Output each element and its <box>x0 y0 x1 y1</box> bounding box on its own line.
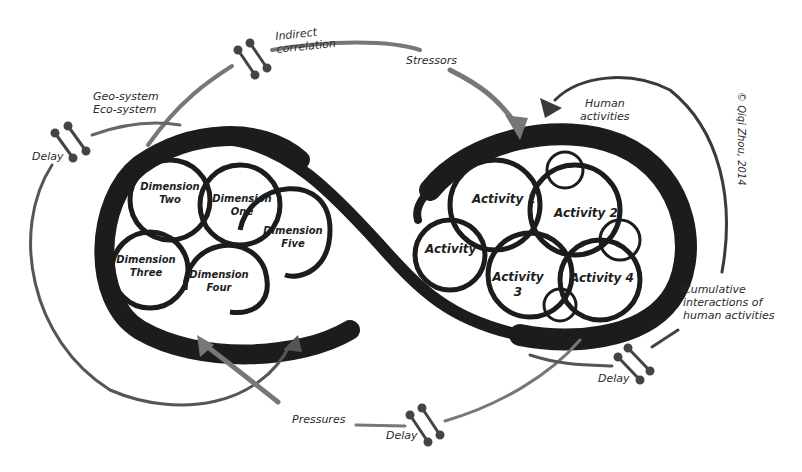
node-dimension-three: Dimension Three <box>113 253 179 279</box>
node-dimension-four: Dimension Four <box>186 268 252 294</box>
pressures-label: Pressures <box>292 413 345 426</box>
node-line2: 3 <box>488 285 548 300</box>
activities-text: activities <box>580 110 630 123</box>
node-line1: Dimension <box>137 180 203 193</box>
node-dimension-one: Dimension One <box>210 192 274 218</box>
node-line2: Four <box>186 281 252 294</box>
cumulative-interactions-label: Cumulative interactions of human activit… <box>683 283 774 322</box>
node-dimension-five: Dimension Five <box>260 224 326 250</box>
delay-label-bottom: Delay <box>386 429 418 442</box>
node-activity-2: Activity 2 <box>554 206 618 221</box>
node-dimension-two: Dimension Two <box>137 180 203 206</box>
geo-system-text: Geo-system <box>93 90 159 103</box>
stressors-label: Stressors <box>406 54 457 67</box>
human-text: Human <box>580 97 630 110</box>
node-line1: Dimension <box>113 253 179 266</box>
copyright-label: © Qiqi Zhou, 2014 <box>735 92 748 186</box>
node-activity: Activity <box>425 242 476 257</box>
node-line1: Dimension <box>210 192 274 205</box>
node-line2: One <box>210 205 274 218</box>
delay-label-left: Delay <box>32 150 64 163</box>
geo-eco-system-label: Geo-system Eco-system <box>93 90 159 116</box>
interactions-of-text: interactions of <box>683 296 774 309</box>
node-activity-4: Activity 4 <box>570 271 634 286</box>
node-activity-1: Activity 1 <box>472 192 536 207</box>
cumulative-text: Cumulative <box>683 283 774 296</box>
node-line1: Dimension <box>186 268 252 281</box>
node-line2: Five <box>260 237 326 250</box>
delay-marker-top <box>235 40 270 78</box>
eco-system-text: Eco-system <box>93 103 159 116</box>
node-line2: Three <box>113 266 179 279</box>
figure-eight-diagram <box>0 0 802 472</box>
node-line2: Two <box>137 193 203 206</box>
delay-label-right: Delay <box>598 372 630 385</box>
human-activities-text: human activities <box>683 309 774 322</box>
node-line1: Activity <box>488 270 548 285</box>
human-activities-label: Human activities <box>580 97 630 123</box>
node-activity-3: Activity 3 <box>488 270 548 300</box>
node-line1: Dimension <box>260 224 326 237</box>
